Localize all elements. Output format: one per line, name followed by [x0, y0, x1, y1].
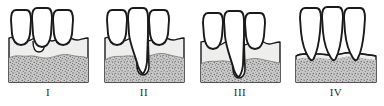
bone-loss-figure: I	[0, 0, 384, 106]
tooth-center-four	[322, 7, 343, 60]
tooth-right-one	[53, 10, 73, 45]
panel-label-four: IV	[288, 86, 384, 98]
panel-stage-two: II	[96, 0, 192, 106]
tooth-left-two	[107, 10, 127, 45]
panel-stage-three: III	[192, 0, 288, 106]
panel-label-three: III	[192, 86, 288, 98]
panel-stage-four: IV	[288, 0, 384, 106]
panel-four-illustration	[288, 0, 384, 90]
panel-three-illustration	[192, 0, 288, 90]
tooth-left-four	[300, 8, 321, 60]
panel-label-two: II	[96, 86, 192, 98]
tooth-left-one	[11, 10, 31, 45]
panel-label-one: I	[0, 86, 96, 98]
panel-two-illustration	[96, 0, 192, 90]
panel-stage-one: I	[0, 0, 96, 106]
tooth-left-three	[203, 13, 223, 49]
tooth-center-one	[32, 8, 52, 47]
tooth-right-three	[245, 13, 265, 49]
tooth-right-two	[149, 10, 169, 45]
panel-one-illustration	[0, 0, 96, 90]
